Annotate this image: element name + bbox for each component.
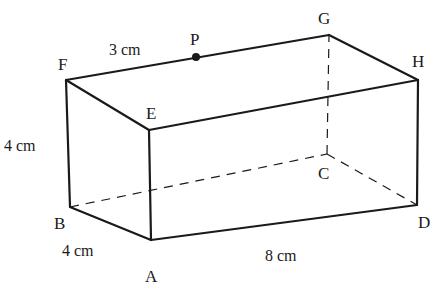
point-p-marker — [192, 53, 200, 61]
edge-gh — [329, 35, 418, 80]
edge-ad — [151, 205, 417, 240]
vertex-label-d: D — [418, 213, 430, 232]
edge-hd — [417, 80, 418, 205]
edge-ea — [149, 130, 151, 240]
vertex-label-e: E — [146, 104, 156, 123]
measurement-height: 4 cm — [4, 137, 36, 154]
vertex-label-c: C — [318, 164, 329, 183]
vertex-label-g: G — [318, 9, 330, 28]
edge-fe — [66, 80, 149, 130]
vertex-label-b: B — [54, 214, 65, 233]
measurement-width: 4 cm — [62, 242, 94, 259]
measurement-length: 8 cm — [265, 247, 297, 264]
edge-ba — [70, 207, 151, 240]
measurement-fp: 3 cm — [109, 41, 141, 58]
cuboid-diagram: F P G H E C B A D 3 cm 4 cm 4 cm 8 cm — [0, 0, 437, 290]
vertex-label-h: H — [412, 52, 424, 71]
edge-cd-hidden — [327, 154, 417, 205]
vertex-label-f: F — [58, 55, 67, 74]
edge-cg-hidden — [327, 35, 329, 154]
edge-fb — [66, 80, 70, 207]
edge-bc-hidden — [70, 154, 327, 207]
point-label-p: P — [190, 30, 199, 49]
vertex-label-a: A — [145, 267, 158, 286]
edge-eh — [149, 80, 418, 130]
